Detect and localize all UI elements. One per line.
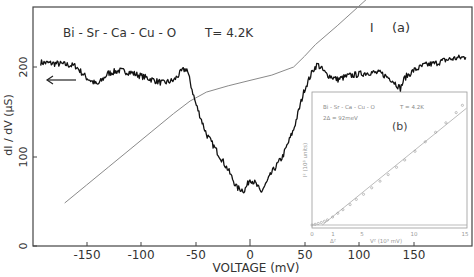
x-axis-tick-labels: -150 -100 -50 0 50 100 150	[73, 248, 425, 262]
inset-x-tick-label: 15	[462, 231, 469, 237]
x-tick-label: -150	[73, 248, 100, 262]
x-tick-label: 100	[348, 248, 371, 262]
x-tick-label: 0	[246, 248, 254, 262]
x-tick-label: -50	[186, 248, 206, 262]
inset-x-tick-labels: 0 1 5 10 15	[310, 231, 469, 237]
y-axis-label: dI / dV (µS)	[2, 94, 15, 156]
inset-temperature-label: T = 4.2K	[399, 104, 424, 110]
inset-delta-label: Δ²	[330, 238, 336, 244]
sample-label: Bi - Sr - Ca - Cu - O	[63, 26, 176, 40]
y-tick-label: 100	[17, 147, 30, 168]
inset-x-axis-label: V² (10³ mV)	[370, 238, 402, 244]
current-curve-label: I	[370, 21, 374, 35]
inset-frame	[312, 92, 467, 228]
left-arrow-icon	[47, 76, 76, 84]
y-tick-label: 0	[17, 243, 30, 250]
y-tick-label: 200	[17, 57, 30, 78]
chart: 0 100 200 dI / dV (µS) -150 -100 -50 0 5…	[0, 0, 474, 277]
x-tick-label: 150	[403, 248, 426, 262]
inset-y-axis-label: I² (10³ units)	[302, 143, 308, 177]
inset-panel-b: Bi - Sr - Ca - Cu - O T = 4.2K 2Δ = 92me…	[302, 92, 469, 244]
inset-x-tick-label: 1	[331, 231, 335, 237]
inset-sample-label: Bi - Sr - Ca - Cu - O	[323, 104, 376, 110]
inset-x-tick-label: 5	[360, 231, 364, 237]
panel-b-label: (b)	[392, 120, 408, 133]
x-axis-ticks	[87, 239, 414, 246]
x-tick-label: 50	[297, 248, 312, 262]
panel-a-label: (a)	[392, 20, 410, 35]
x-axis-label: VOLTAGE (mV)	[213, 261, 300, 275]
x-tick-label: -100	[127, 248, 154, 262]
temperature-label: T= 4.2K	[204, 26, 254, 40]
inset-gap-label: 2Δ = 92meV	[323, 115, 358, 121]
inset-x-tick-label: 0	[310, 231, 314, 237]
y-axis-tick-labels: 0 100 200	[17, 57, 30, 250]
inset-x-tick-label: 10	[411, 231, 418, 237]
